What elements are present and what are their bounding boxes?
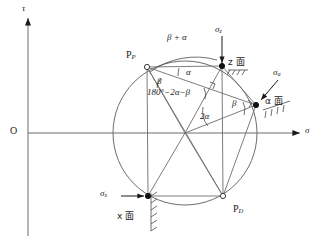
point-x-face: [145, 193, 150, 198]
angle-alpha-top: α: [186, 68, 191, 77]
pole-label: PP: [126, 50, 136, 61]
point-z-face: [219, 63, 224, 68]
radius-center-xface: [148, 133, 185, 196]
x-plane-label: x 面: [117, 212, 134, 221]
tau-axis-label: τ: [22, 4, 25, 13]
z-plane-hatch: [227, 70, 248, 75]
angle-beta-pole: β: [157, 77, 161, 86]
point-alpha-face: [253, 102, 258, 107]
pole-label-sub: P: [132, 53, 136, 60]
pd-label: PD: [233, 204, 243, 215]
origin-label: O: [10, 126, 17, 136]
alpha-plane-label: α 面: [265, 97, 283, 106]
point-pole: [144, 64, 149, 69]
radius-center-pole: [147, 67, 185, 133]
sigma-x-sub: x: [104, 192, 107, 198]
sigma-axis-label: σ: [305, 126, 309, 135]
angle-sum: 180°−2α−β: [147, 88, 190, 97]
point-pd: [220, 193, 225, 198]
angle-two-alpha: 2α: [200, 112, 209, 121]
arc-alpha-top: [178, 68, 179, 76]
angle-beta-right: β: [232, 99, 236, 108]
sigma-z-label: σz: [215, 25, 222, 35]
sigma-x-label: σx: [100, 189, 107, 199]
mohr-circle-canvas: [0, 0, 327, 240]
figure-root: τ σ O PP PD σz σα σx z 面 α 面 x 面 β + α α…: [0, 0, 327, 240]
sigma-alpha-sub: α: [277, 71, 280, 77]
z-plane-label: z 面: [228, 58, 245, 67]
arc-beta-right: [243, 102, 245, 115]
pd-label-sub: D: [239, 207, 244, 214]
axis-group: [28, 18, 300, 236]
radius-center-pd: [185, 133, 223, 196]
sigma-alpha-label: σα: [273, 68, 281, 78]
angle-beta-plus-alpha: β + α: [167, 33, 187, 42]
chord-zface-pd: [222, 66, 223, 196]
chord-aface-pd: [223, 105, 256, 196]
sigma-z-sub: z: [219, 28, 221, 34]
